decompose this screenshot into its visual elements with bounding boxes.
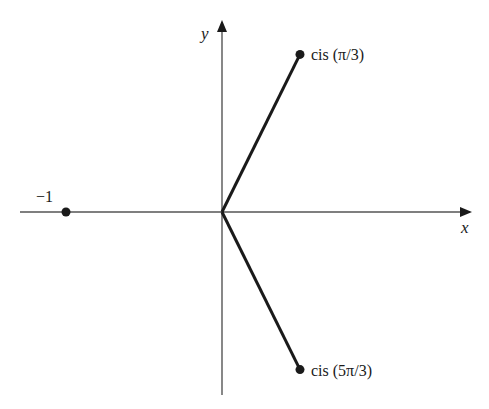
segment-cis-5pi-3 [222,212,300,370]
y-axis-label: y [199,24,209,43]
x-axis-label: x [460,218,469,237]
point-label-cis-5pi-3: cis (5π/3) [311,362,372,380]
point-label-cis-pi-3: cis (π/3) [311,46,364,64]
segment-cis-pi-3 [222,54,300,212]
point-minus-one [62,208,71,217]
point-label-minus-one: −1 [36,188,53,205]
point-cis-5pi-3 [296,365,305,374]
point-cis-pi-3 [296,50,305,59]
complex-plane-diagram: x y cis (π/3)cis (5π/3)−1 [0,0,489,409]
